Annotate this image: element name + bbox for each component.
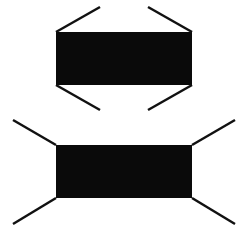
bottom-upper-right-fin [192,120,235,145]
top-lower-left-fin [56,85,100,110]
figure-bottom [13,120,235,224]
bottom-lower-left-fin [13,198,56,224]
figure-top [56,7,192,110]
top-upper-left-fin [56,7,100,32]
bottom-upper-left-fin [13,120,56,145]
top-lower-right-fin [148,85,192,110]
bottom-lower-right-fin [192,198,235,224]
bottom-rectangle [56,145,192,198]
illusion-diagram [0,0,243,234]
top-upper-right-fin [148,7,192,32]
top-rectangle [56,32,192,85]
